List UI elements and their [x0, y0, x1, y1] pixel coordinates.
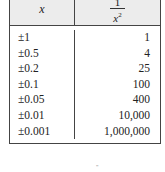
table-cell-x: ±0.001: [18, 124, 74, 140]
table-cell-x: ±0.01: [18, 108, 74, 124]
header-x: x: [10, 0, 75, 25]
stray-mark: ": [96, 164, 98, 170]
table-cell-value: 4: [75, 46, 150, 62]
values-table: x 1 x2 ±1 ±0.5 ±0.2 ±0.1 ±0.05 ±0.01 ±0.…: [9, 0, 161, 144]
table-cell-value: 400: [75, 92, 150, 108]
value-column: 1 4 25 100 400 10,000 1,000,000: [75, 30, 160, 139]
table-body: ±1 ±0.5 ±0.2 ±0.1 ±0.05 ±0.01 ±0.001 1 4…: [10, 26, 160, 143]
table-cell-value: 100: [75, 77, 150, 93]
table-cell-x: ±0.1: [18, 77, 74, 93]
table-header: x 1 x2: [10, 0, 160, 26]
denominator-exponent: 2: [118, 11, 122, 19]
table-cell-value: 1: [75, 30, 150, 46]
x-column: ±1 ±0.5 ±0.2 ±0.1 ±0.05 ±0.01 ±0.001: [10, 30, 75, 139]
fraction: 1 x2: [110, 0, 126, 23]
table-cell-x: ±0.5: [18, 46, 74, 62]
header-reciprocal-square: 1 x2: [75, 0, 160, 25]
fraction-denominator: x2: [113, 9, 121, 24]
table-cell-value: 1,000,000: [75, 124, 150, 140]
table-cell-x: ±0.05: [18, 92, 74, 108]
table-cell-value: 25: [75, 61, 150, 77]
fraction-numerator: 1: [110, 0, 126, 9]
table-cell-value: 10,000: [75, 108, 150, 124]
table-cell-x: ±1: [18, 30, 74, 46]
table-cell-x: ±0.2: [18, 61, 74, 77]
